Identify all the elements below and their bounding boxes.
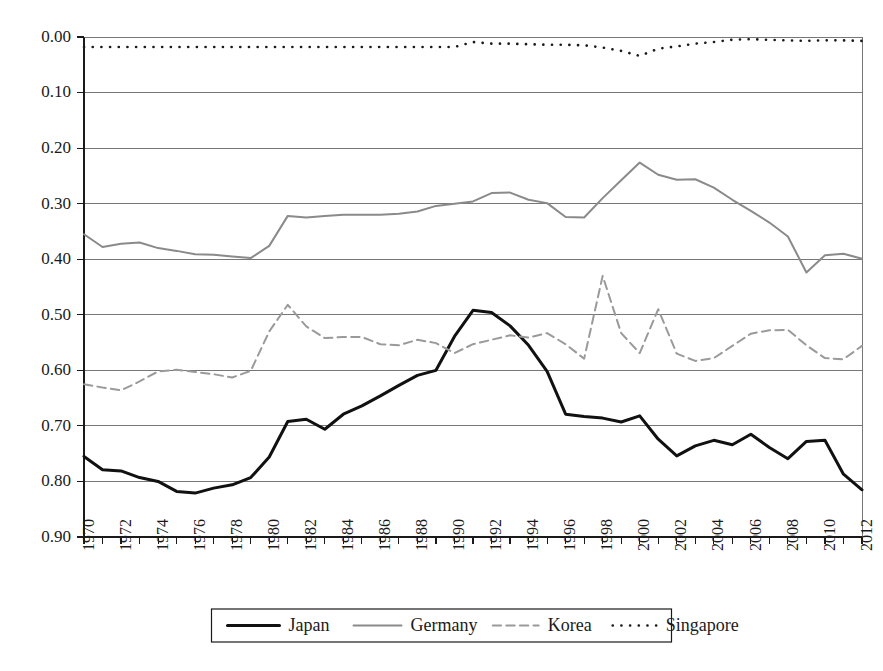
x-tick-label-2000: 2000 [635,519,652,551]
x-tick-label-2012: 2012 [858,519,875,551]
x-tick-label-2008: 2008 [784,519,801,551]
y-tick-label-0.50: 0.50 [41,305,71,324]
legend-label-singapore: Singapore [666,615,739,635]
legend-label-korea: Korea [548,615,592,635]
legend-label-japan: Japan [289,615,330,635]
x-tick-labels: 1970197219741976197819801982198419861988… [80,519,875,551]
series-line-korea [84,276,862,390]
y-tick-label-0.40: 0.40 [41,249,71,268]
legend-label-germany: Germany [411,615,478,635]
data-series-group [84,39,862,493]
line-chart: 0.000.100.200.300.400.500.600.700.800.90… [0,0,883,671]
x-tick-label-1992: 1992 [487,519,504,551]
x-tick-label-1974: 1974 [154,519,171,551]
y-tick-label-0.30: 0.30 [41,194,71,213]
chart-figure: 0.000.100.200.300.400.500.600.700.800.90… [0,0,883,671]
x-tick-label-1988: 1988 [413,519,430,551]
y-tick-label-0.10: 0.10 [41,82,71,101]
x-tick-label-1982: 1982 [302,519,319,551]
x-tick-label-1980: 1980 [265,519,282,551]
y-tick-label-0.80: 0.80 [41,471,71,490]
x-tick-label-2004: 2004 [709,519,726,551]
y-tick-label-0.60: 0.60 [41,360,71,379]
x-tick-label-1978: 1978 [228,519,245,551]
chart-legend: JapanGermanyKoreaSingapore [212,609,739,642]
x-tick-label-1976: 1976 [191,519,208,551]
y-tick-label-0.00: 0.00 [41,27,71,46]
x-tick-label-1970: 1970 [80,519,97,551]
x-tick-label-1986: 1986 [376,519,393,551]
y-tick-label-0.70: 0.70 [41,416,71,435]
series-line-germany [84,163,862,273]
x-tick-label-1984: 1984 [339,519,356,551]
y-tick-label-0.90: 0.90 [41,527,71,546]
x-tick-label-2002: 2002 [672,519,689,551]
x-tick-label-1998: 1998 [598,519,615,551]
gridlines [84,93,862,537]
y-tick-label-0.20: 0.20 [41,138,71,157]
x-tick-label-1990: 1990 [450,519,467,551]
x-tick-label-2010: 2010 [821,519,838,551]
axes [84,37,862,537]
y-tick-labels: 0.000.100.200.300.400.500.600.700.800.90 [41,27,84,546]
x-tick-label-1972: 1972 [117,519,134,551]
x-tick-label-2006: 2006 [747,519,764,551]
series-line-singapore [84,39,862,56]
x-tick-label-1996: 1996 [561,519,578,551]
x-tick-label-1994: 1994 [524,519,541,551]
